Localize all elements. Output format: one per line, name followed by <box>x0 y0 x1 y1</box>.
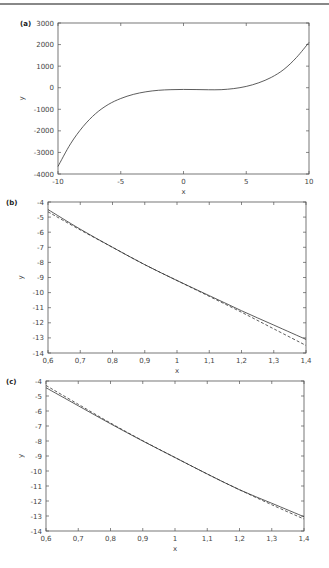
y-tick-label: -11 <box>31 483 42 491</box>
series-line-solid <box>46 388 304 517</box>
y-tick-label: -11 <box>33 304 44 312</box>
x-tick-label: 1,2 <box>234 535 245 543</box>
x-tick-label: 0,6 <box>42 357 54 365</box>
y-tick-label: -5 <box>37 214 44 222</box>
series-line-dashed <box>46 386 304 520</box>
x-axis-title: x <box>181 188 185 196</box>
y-tick-label: -10 <box>31 468 42 476</box>
y-tick-label: -7 <box>37 244 44 252</box>
x-tick-label: 0,9 <box>139 357 150 365</box>
y-tick-label: -10 <box>33 289 44 297</box>
panel-label: (b) <box>6 199 17 207</box>
chart-panel-a: 3000200010000-1000-2000-3000-4000-10-505… <box>18 20 313 197</box>
x-tick-label: 1,4 <box>300 357 312 365</box>
y-tick-label: -12 <box>31 498 42 506</box>
x-tick-label: -10 <box>52 178 63 186</box>
series-line-solid <box>58 42 309 166</box>
y-tick-label: -4 <box>37 199 45 207</box>
x-tick-label: 1 <box>173 535 177 543</box>
x-tick-label: 0 <box>181 178 185 186</box>
x-tick-label: 0,7 <box>73 535 84 543</box>
y-tick-label: 2000 <box>36 41 54 49</box>
x-tick-label: 0,9 <box>137 535 148 543</box>
y-tick-label: -8 <box>35 438 42 446</box>
x-tick-label: -5 <box>117 178 124 186</box>
x-tick-label: 0,6 <box>40 535 52 543</box>
x-tick-label: 10 <box>305 178 314 186</box>
plot-frame <box>46 381 304 531</box>
y-tick-label: 0 <box>50 84 54 92</box>
y-tick-label: -4 <box>35 378 43 386</box>
x-tick-label: 1 <box>175 357 179 365</box>
y-tick-label: -13 <box>33 334 44 342</box>
y-tick-label: 1000 <box>36 63 54 71</box>
y-tick-label: -2000 <box>34 127 54 135</box>
y-tick-label: -13 <box>31 513 42 521</box>
y-tick-label: -1000 <box>34 106 54 114</box>
y-axis-title: y <box>17 454 25 458</box>
y-tick-label: -3000 <box>34 149 54 157</box>
series-line-solid <box>48 210 306 340</box>
x-tick-label: 0,8 <box>107 357 118 365</box>
x-tick-label: 1,4 <box>298 535 310 543</box>
y-tick-label: -9 <box>35 453 42 461</box>
y-tick-label: -6 <box>35 408 43 416</box>
x-axis-title: x <box>175 367 179 375</box>
x-axis-title: x <box>173 545 177 553</box>
x-tick-label: 0,7 <box>75 357 86 365</box>
panel-label: (c) <box>6 378 17 386</box>
y-tick-label: -7 <box>35 423 42 431</box>
chart-panel-b: -4-5-6-7-8-9-10-11-12-13-140,60,70,80,91… <box>6 199 312 376</box>
x-tick-label: 1,3 <box>266 535 277 543</box>
plot-frame <box>48 202 306 353</box>
chart-panel-c: -4-5-6-7-8-9-10-11-12-13-140,60,70,80,91… <box>6 378 310 554</box>
y-axis-title: y <box>17 275 25 279</box>
x-tick-label: 1,1 <box>202 535 213 543</box>
x-tick-label: 0,8 <box>105 535 116 543</box>
y-tick-label: -6 <box>37 229 45 237</box>
y-tick-label: -9 <box>37 274 44 282</box>
figure-canvas: 3000200010000-1000-2000-3000-4000-10-505… <box>0 0 329 568</box>
series-line-dashed <box>48 212 306 346</box>
y-tick-label: -12 <box>33 319 44 327</box>
x-tick-label: 5 <box>244 178 248 186</box>
y-tick-label: -5 <box>35 393 42 401</box>
x-tick-label: 1,1 <box>204 357 215 365</box>
x-tick-label: 1,3 <box>268 357 279 365</box>
y-tick-label: 3000 <box>36 20 54 28</box>
y-tick-label: -8 <box>37 259 44 267</box>
x-tick-label: 1,2 <box>236 357 247 365</box>
y-axis-title: y <box>18 96 26 100</box>
y-tick-label: -4000 <box>34 171 54 179</box>
panel-label: (a) <box>20 20 31 28</box>
plot-frame <box>58 23 309 174</box>
